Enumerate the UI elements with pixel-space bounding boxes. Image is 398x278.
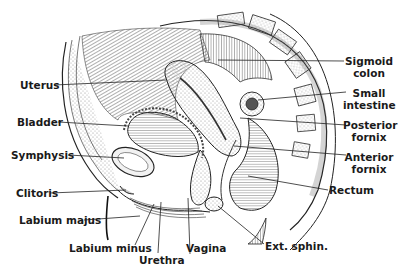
label-posterior-fornix: Posterior fornix	[343, 119, 395, 143]
label-anterior-fornix: Anterior fornix	[343, 151, 395, 175]
pelvis-illustration	[0, 0, 398, 278]
label-labium-majus: Labium majus	[19, 214, 101, 226]
label-small-intestine: Small intestine	[343, 87, 395, 111]
label-clitoris: Clitoris	[16, 187, 58, 199]
label-urethra: Urethra	[139, 254, 185, 266]
label-bladder: Bladder	[17, 116, 63, 128]
label-uterus: Uterus	[20, 79, 60, 91]
sigmoid-colon	[200, 34, 272, 82]
label-labium-minus: Labium minus	[69, 242, 152, 254]
label-vagina: Vagina	[186, 242, 226, 254]
external-sphincter	[205, 197, 223, 211]
vagina	[190, 150, 210, 205]
label-ext-sphin: Ext. sphin.	[265, 240, 328, 252]
anatomy-diagram: Uterus Bladder Symphysis Clitoris Labium…	[0, 0, 398, 278]
label-sigmoid-colon: Sigmoid colon	[343, 55, 395, 79]
label-rectum: Rectum	[329, 184, 374, 196]
label-symphysis: Symphysis	[11, 149, 74, 161]
